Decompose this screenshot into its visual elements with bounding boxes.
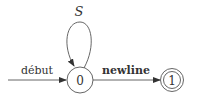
start-edge: début [8,64,66,80]
state-1: 1 [161,69,184,92]
self-loop-arrow-icon [67,22,91,68]
self-loop-transition: S [67,4,91,68]
state-label: 0 [76,74,84,88]
self-loop-label: S [75,4,84,19]
state-0: 0 [67,67,93,93]
state-label: 1 [168,74,176,88]
transition-newline: newline [93,64,160,80]
transition-label: newline [102,64,150,77]
start-edge-label: début [21,64,54,77]
automaton-diagram: début S newline 0 1 [0,0,197,99]
